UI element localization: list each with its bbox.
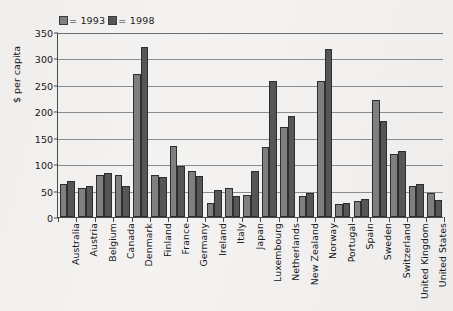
bar-1998 bbox=[67, 181, 75, 217]
bar-1998 bbox=[343, 203, 351, 217]
y-tick-label: 0 bbox=[47, 213, 53, 224]
x-axis-label: United Kingdom bbox=[419, 223, 430, 299]
x-axis-label: Belgium bbox=[107, 223, 118, 262]
bar-group bbox=[370, 33, 388, 217]
bar-1993 bbox=[225, 188, 233, 217]
bar-1998 bbox=[288, 116, 296, 217]
bar-1993 bbox=[133, 74, 141, 217]
bar-group bbox=[242, 33, 260, 217]
bar-group bbox=[150, 33, 168, 217]
x-tick-mark bbox=[370, 217, 371, 222]
bar-1993 bbox=[335, 204, 343, 217]
bar-1993 bbox=[188, 171, 196, 218]
x-tick-mark bbox=[113, 217, 114, 222]
bar-group bbox=[389, 33, 407, 217]
bar-1998 bbox=[416, 184, 424, 217]
bar-1993 bbox=[78, 188, 86, 217]
x-tick-mark bbox=[315, 217, 316, 222]
x-axis-label: Finland bbox=[162, 223, 173, 257]
bar-group bbox=[407, 33, 425, 217]
bar-1993 bbox=[243, 195, 251, 217]
x-axis-label: Ireland bbox=[217, 223, 228, 256]
bar-chart: = 1993 = 1998 $ per capita 0501001502002… bbox=[0, 0, 453, 311]
x-axis-label: Portugal bbox=[346, 223, 357, 262]
x-tick-mark bbox=[426, 217, 427, 222]
bar-1993 bbox=[151, 175, 159, 217]
bar-group bbox=[58, 33, 76, 217]
plot-area: 050100150200250300350 bbox=[57, 33, 443, 218]
chart-legend: = 1993 = 1998 bbox=[59, 13, 158, 27]
x-tick-mark bbox=[407, 217, 408, 222]
bar-group bbox=[426, 33, 444, 217]
bar-group bbox=[334, 33, 352, 217]
legend-label-1993: = 1993 bbox=[69, 15, 105, 26]
x-axis-label: Germany bbox=[198, 223, 209, 266]
legend-entry-1998: = 1998 bbox=[108, 15, 157, 26]
x-tick-mark bbox=[334, 217, 335, 222]
bar-1998 bbox=[196, 176, 204, 217]
bar-1993 bbox=[299, 196, 307, 217]
bar-1993 bbox=[354, 201, 362, 217]
bar-group bbox=[260, 33, 278, 217]
bar-group bbox=[168, 33, 186, 217]
bar-1998 bbox=[122, 186, 130, 217]
x-tick-mark bbox=[187, 217, 188, 222]
bar-1993 bbox=[372, 100, 380, 217]
x-axis-label: Austria bbox=[88, 223, 99, 257]
bar-1993 bbox=[96, 175, 104, 217]
bar-group bbox=[95, 33, 113, 217]
y-tick-label: 300 bbox=[35, 54, 53, 65]
x-tick-mark bbox=[76, 217, 77, 222]
bar-group bbox=[132, 33, 150, 217]
x-axis-label: Japan bbox=[254, 223, 265, 249]
bar-group bbox=[279, 33, 297, 217]
bar-1998 bbox=[269, 81, 277, 217]
x-axis-label: France bbox=[180, 223, 191, 255]
x-axis-label: United States bbox=[437, 223, 448, 287]
bar-1998 bbox=[214, 190, 222, 217]
bar-1993 bbox=[409, 186, 417, 217]
bar-1993 bbox=[390, 154, 398, 217]
bar-1993 bbox=[170, 146, 178, 217]
bar-1993 bbox=[115, 175, 123, 217]
x-axis-label: Canada bbox=[125, 223, 136, 259]
x-tick-mark bbox=[58, 217, 59, 222]
x-tick-mark bbox=[132, 217, 133, 222]
x-axis-label: New Zealand bbox=[309, 223, 320, 285]
x-tick-mark bbox=[150, 217, 151, 222]
y-tick-label: 200 bbox=[35, 107, 53, 118]
x-tick-mark bbox=[242, 217, 243, 222]
y-tick-label: 100 bbox=[35, 160, 53, 171]
legend-swatch-1993-icon bbox=[59, 16, 68, 25]
x-axis-label: Luxembourg bbox=[272, 223, 283, 282]
bar-1993 bbox=[207, 203, 215, 217]
bar-group bbox=[315, 33, 333, 217]
y-tick-label: 350 bbox=[35, 28, 53, 39]
bar-1993 bbox=[60, 184, 68, 217]
bar-1993 bbox=[262, 147, 270, 217]
x-tick-mark bbox=[168, 217, 169, 222]
bar-group bbox=[113, 33, 131, 217]
bar-1998 bbox=[361, 199, 369, 218]
bar-group bbox=[297, 33, 315, 217]
bar-group bbox=[76, 33, 94, 217]
x-tick-mark bbox=[260, 217, 261, 222]
bar-1998 bbox=[141, 47, 149, 217]
x-tick-mark bbox=[389, 217, 390, 222]
bar-1998 bbox=[380, 121, 388, 217]
bar-1998 bbox=[325, 49, 333, 217]
bar-group bbox=[223, 33, 241, 217]
bar-group bbox=[352, 33, 370, 217]
bar-1998 bbox=[86, 186, 94, 217]
bar-1993 bbox=[427, 193, 435, 217]
y-axis-title: $ per capita bbox=[11, 46, 22, 103]
bar-1998 bbox=[159, 177, 167, 217]
legend-label-1998: = 1998 bbox=[118, 15, 154, 26]
x-axis-label: Norway bbox=[327, 223, 338, 259]
bar-1998 bbox=[177, 166, 185, 217]
x-axis-labels: AustraliaAustriaBelgiumCanadaDenmarkFinl… bbox=[57, 223, 443, 307]
bar-1993 bbox=[317, 81, 325, 217]
y-tick-label: 150 bbox=[35, 133, 53, 144]
legend-swatch-1998-icon bbox=[108, 16, 117, 25]
bar-1998 bbox=[398, 151, 406, 217]
